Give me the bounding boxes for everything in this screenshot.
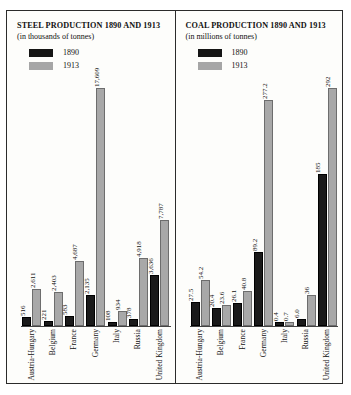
coal-production-panel: COAL PRODUCTION 1890 AND 1913 (in millio…: [175, 11, 343, 383]
legend-entry-1890: 1890: [198, 47, 248, 58]
coal-plot-area: 27.554.220.423.626.140.889.2277.20.40.76…: [176, 71, 343, 326]
legend-entry-1890: 1890: [29, 47, 79, 58]
bar-1890: 27.5: [191, 302, 200, 326]
bar-group: 5162,611: [21, 71, 42, 326]
bar-pair: 20.423.6: [212, 71, 231, 326]
steel-legend: 1890 1913: [29, 47, 79, 73]
bar-group: 2,13517,609: [85, 71, 106, 326]
bar-pair: 89.2277.2: [254, 71, 273, 326]
bar-1890: 378: [129, 319, 138, 326]
chart-frame: STEEL PRODUCTION 1890 AND 1913 (in thous…: [6, 10, 343, 384]
bar-1890: 6.0: [297, 319, 306, 326]
bar-pair: 5162,611: [22, 71, 41, 326]
steel-production-panel: STEEL PRODUCTION 1890 AND 1913 (in thous…: [7, 11, 175, 383]
bar-group: 26.140.8: [232, 71, 253, 326]
category-label: Russia: [296, 327, 317, 387]
category-label: Austria-Hungary: [190, 327, 211, 387]
category-label: Russia: [128, 327, 149, 387]
coal-chart-subtitle: (in millions of tonnes): [186, 32, 257, 41]
steel-category-labels: Austria-HungaryBelgiumFranceGermanyItaly…: [7, 327, 175, 387]
legend-swatch-1913: [29, 62, 53, 70]
bar-1890: 185: [318, 174, 327, 326]
bar-group: 20.423.6: [211, 71, 232, 326]
bar-group: 3,6367,787: [149, 71, 170, 326]
steel-chart-subtitle: (in thousands of tonnes): [17, 32, 94, 41]
bar-group: 27.554.2: [190, 71, 211, 326]
bar-1913: 17,609: [96, 88, 105, 326]
bar-1890: 2,135: [86, 295, 95, 326]
bar-1913: 7,787: [160, 220, 169, 326]
category-label: Germany: [253, 327, 274, 387]
bar-group: 0.40.7: [274, 71, 295, 326]
bar-1890: 26.1: [233, 303, 242, 326]
bar-1913: 23.6: [222, 305, 231, 326]
legend-label-1913: 1913: [63, 61, 79, 70]
bar-pair: 2,13517,609: [86, 71, 105, 326]
bar-pair: 2212,403: [44, 71, 63, 326]
legend-label-1890: 1890: [232, 48, 248, 57]
bar-group: 89.2277.2: [253, 71, 274, 326]
legend-swatch-1913: [198, 62, 222, 70]
bar-1890: 583: [65, 316, 74, 326]
steel-bar-groups: 5162,6112212,4035834,6872,13517,60910893…: [7, 71, 175, 326]
coal-chart-title: COAL PRODUCTION 1890 AND 1913: [186, 21, 326, 30]
legend-entry-1913: 1913: [198, 60, 248, 71]
bar-pair: 6.036: [297, 71, 316, 326]
category-label: Austria-Hungary: [21, 327, 42, 387]
bar-1913: 277.2: [264, 100, 273, 326]
legend-swatch-1890: [198, 49, 222, 57]
category-label: France: [64, 327, 85, 387]
bar-group: 2212,403: [42, 71, 63, 326]
steel-plot-area: 5162,6112212,4035834,6872,13517,60910893…: [7, 71, 175, 326]
category-label: Belgium: [42, 327, 63, 387]
category-label: United Kingdom: [317, 327, 338, 387]
coal-category-labels: Austria-HungaryBelgiumFranceGermanyItaly…: [176, 327, 343, 387]
bar-pair: 26.140.8: [233, 71, 252, 326]
bar-1890: 516: [22, 317, 31, 326]
bar-1913: 292: [328, 88, 337, 326]
bar-1913: 40.8: [243, 291, 252, 326]
category-label: Belgium: [211, 327, 232, 387]
category-label: United Kingdom: [149, 327, 170, 387]
bar-pair: 3,6367,787: [150, 71, 169, 326]
bar-group: 3784,918: [128, 71, 149, 326]
bar-group: 185292: [317, 71, 338, 326]
category-label: France: [232, 327, 253, 387]
bar-group: 5834,687: [64, 71, 85, 326]
category-label: Italy: [106, 327, 127, 387]
bar-pair: 27.554.2: [191, 71, 210, 326]
legend-label-1890: 1890: [63, 48, 79, 57]
bar-1913: 36: [307, 295, 316, 326]
bar-pair: 5834,687: [65, 71, 84, 326]
legend-label-1913: 1913: [232, 61, 248, 70]
steel-chart-title: STEEL PRODUCTION 1890 AND 1913: [17, 21, 160, 30]
legend-entry-1913: 1913: [29, 60, 79, 71]
bar-group: 108934: [106, 71, 127, 326]
legend-swatch-1890: [29, 49, 53, 57]
category-label: Germany: [85, 327, 106, 387]
bar-1890: 3,636: [150, 275, 159, 326]
bar-1890: 20.4: [212, 308, 221, 326]
bar-pair: 3784,918: [129, 71, 148, 326]
bar-1913: 2,611: [32, 289, 41, 326]
category-label: Italy: [274, 327, 295, 387]
bar-pair: 108934: [108, 71, 127, 326]
bar-group: 6.036: [296, 71, 317, 326]
bar-pair: 0.40.7: [275, 71, 294, 326]
coal-legend: 1890 1913: [198, 47, 248, 73]
bar-pair: 185292: [318, 71, 337, 326]
coal-bar-groups: 27.554.220.423.626.140.889.2277.20.40.76…: [176, 71, 343, 326]
bar-1890: 89.2: [254, 252, 263, 326]
